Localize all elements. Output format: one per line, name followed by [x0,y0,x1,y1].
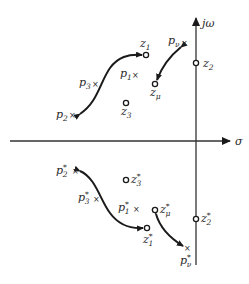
pole-p1star-marker: × [133,205,140,214]
label-pvstar: p*ν [180,253,192,269]
label-p1: p1 [120,67,132,82]
axes: σ jω [10,17,243,265]
pole-zero-diagram: σ jω × × × × z1 z2 z3 zμ p1 p2 p3 pν [0,0,249,284]
label-z1: z1 [139,37,151,52]
label-z2star: z*2 [200,211,212,227]
pole-p2-marker: × [69,111,76,120]
label-zmu: zμ [149,86,161,101]
arrow-zmustar-pvstar [156,214,183,246]
pole-p2star-marker: × [72,167,79,176]
label-p2star: p*2 [56,163,68,179]
label-zmustar: z*μ [159,202,171,218]
lower-labels: z*1 z*2 z*3 z*μ p*1 p*2 p*3 p*ν [56,163,212,269]
sigma-label: σ [235,135,243,148]
label-p2: p2 [56,108,68,123]
zero-z1 [143,52,148,57]
label-z2: z2 [202,57,214,72]
label-pv: pν [168,34,180,49]
label-z1star: z*1 [142,232,153,248]
label-z3: z3 [120,105,132,120]
label-p1star: p*1 [118,200,130,216]
label-p3star: p*3 [78,190,90,206]
jw-label: jω [199,17,214,30]
pole-pvstar-marker: × [184,244,191,253]
zero-z1star [144,225,149,230]
zero-zmustar [152,207,157,212]
zero-z3star [123,177,128,182]
pole-pv-marker: × [181,39,188,48]
arrow-pv-zmu [157,47,181,80]
label-z3star: z*3 [130,172,142,188]
pole-p3-marker: × [92,80,99,89]
pole-p3star-marker: × [93,195,100,204]
zero-z2 [193,60,198,65]
pole-p1-marker: × [132,71,139,80]
zero-z2star [193,216,198,221]
label-p3: p3 [79,76,91,91]
